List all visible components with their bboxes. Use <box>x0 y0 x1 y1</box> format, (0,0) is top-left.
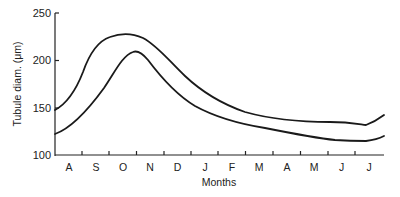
x-tick-label: J <box>202 161 207 173</box>
upper-curve <box>55 34 384 125</box>
series-lines <box>55 34 384 141</box>
chart: 250 200 150 100 Tubule diam. (μm) A S O … <box>0 0 400 197</box>
y-tick-150: 150 <box>33 102 51 114</box>
y-tick-250: 250 <box>33 7 51 19</box>
x-tick-label: J <box>339 161 344 173</box>
x-tick-label: F <box>229 161 235 173</box>
y-axis-label: Tubule diam. (μm) <box>11 41 23 126</box>
x-axis-label: Months <box>202 176 236 188</box>
y-tick-labels: 250 200 150 100 <box>33 7 51 161</box>
x-tick-labels: A S O N D J F M A M J J <box>65 161 371 173</box>
y-tick-200: 200 <box>33 54 51 66</box>
x-tick-label: A <box>65 161 72 173</box>
x-tick-label: M <box>310 161 319 173</box>
x-tick-label: S <box>92 161 99 173</box>
x-tick-label: O <box>119 161 127 173</box>
x-tick-label: N <box>146 161 154 173</box>
x-tick-label: D <box>174 161 182 173</box>
lower-curve <box>55 51 384 141</box>
y-tick-100: 100 <box>33 149 51 161</box>
x-tick-label: J <box>366 161 371 173</box>
x-axis <box>55 151 384 155</box>
x-tick-label: A <box>283 161 290 173</box>
x-tick-label: M <box>255 161 264 173</box>
